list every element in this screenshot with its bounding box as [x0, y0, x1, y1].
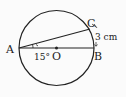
angle-tick-icon: [36, 45, 38, 47]
point-b-label: B: [94, 50, 102, 63]
point-c-label: C: [87, 17, 95, 30]
length-label: 3 cm: [95, 32, 118, 42]
angle-label: 15°: [34, 52, 50, 62]
chord-ac: [19, 29, 90, 48]
circle-figure: A B C O 15° 3 cm: [0, 0, 126, 97]
point-a-label: A: [5, 43, 15, 56]
point-o-label: O: [52, 50, 61, 63]
arrow-down-icon: [95, 42, 98, 46]
geometry-diagram: A B C O 15° 3 cm: [0, 0, 126, 97]
